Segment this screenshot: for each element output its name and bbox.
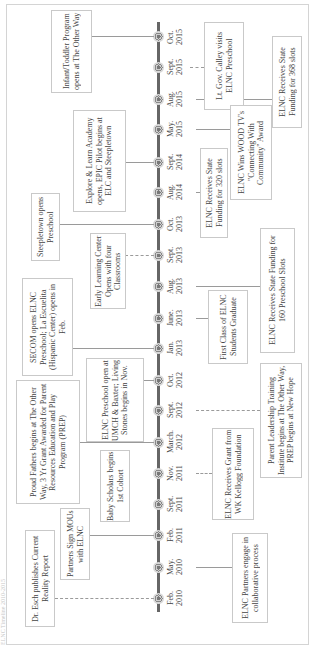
event-text: ELNC Partners engage in collaborative pr…	[241, 534, 260, 622]
event-box-oct2013: Steepletown opens Preschool	[31, 193, 60, 261]
milestone-marker-icon	[153, 530, 164, 541]
date-label: Nov.2011	[166, 460, 184, 486]
milestone-marker-icon	[153, 562, 164, 573]
date-label: Aug.2013	[166, 273, 184, 299]
connector-line	[80, 442, 154, 443]
event-box-feb2011: Partners Sign MOUs with ELNC	[60, 508, 90, 580]
event-box-oct2012: ELNC Preschool open at UMCH & Baxter; Li…	[86, 358, 144, 442]
date-label: Feb.2010	[166, 585, 184, 611]
date-label: Oct.2015	[166, 24, 184, 50]
date-label: Sept.2014	[166, 149, 184, 175]
connector-line	[190, 67, 204, 68]
milestone-marker-icon	[153, 375, 164, 386]
event-box-sept2011: Baby Scholars begins 1st Cohort	[100, 450, 130, 522]
event-text: ELNC Receives State Funding for 368 slot…	[278, 37, 297, 127]
connector-line	[126, 162, 154, 163]
date-label: June.2013	[166, 304, 184, 332]
date-label: Oct.2012	[166, 367, 184, 393]
connector-line	[196, 567, 232, 568]
connector-line	[90, 535, 154, 536]
milestone-marker-icon	[153, 437, 164, 448]
event-box-feb2010: Dr. Esch publishes Current Reality Repor…	[25, 530, 55, 627]
event-box-oct2015: Infant/Toddler Program opens at The Othe…	[51, 10, 92, 93]
event-text: Partners Sign MOUs with ELNC	[66, 509, 85, 579]
milestone-marker-icon	[153, 343, 164, 354]
connector-line	[73, 348, 154, 349]
date-label: March.2012	[166, 426, 184, 458]
event-text: Steepletown opens Preschool	[36, 194, 55, 260]
date-label: Sept.2011	[166, 491, 184, 517]
date-label: Jan.2013	[166, 335, 184, 361]
event-box-sept2015: Lt. Gov. Calley visits ELNC Preschool	[204, 22, 244, 110]
event-box-june2013: First Class of ELNC Students Graduate	[208, 290, 248, 364]
event-box-aug2014: ELNC Receives State Funding for 320 slot…	[200, 148, 228, 238]
milestone-marker-icon	[153, 593, 164, 604]
event-box-nov2011: ELNC Receives Grant from WK Kellogg Foun…	[212, 428, 254, 520]
milestone-marker-icon	[153, 62, 164, 73]
milestone-marker-icon	[153, 313, 164, 324]
event-text: First Class of ELNC Students Graduate	[219, 291, 238, 363]
connector-line	[144, 380, 154, 381]
event-text: SECOM opens ELNC Preschool; La Escuelita…	[29, 279, 67, 375]
date-label: Oct.2013	[166, 211, 184, 237]
date-label: Aug.2014	[166, 179, 184, 205]
connector-line	[55, 598, 154, 599]
event-text: ELNC Receives Grant from WK Kellogg Foun…	[224, 429, 243, 519]
milestone-marker-icon	[153, 124, 164, 135]
event-box-jan2013: SECOM opens ELNC Preschool; La Escuelita…	[22, 278, 73, 376]
event-text: Proud Fathers begins at The Other Way, 3…	[29, 381, 67, 503]
milestone-marker-icon	[153, 94, 164, 105]
milestone-marker-icon	[153, 499, 164, 510]
milestone-marker-icon	[153, 405, 164, 416]
event-text: ELNC Receives State Funding for 160 Pres…	[268, 229, 287, 352]
milestone-marker-icon	[153, 250, 164, 261]
date-label: Aug.2015	[166, 86, 184, 112]
event-text: ELNC Wins WOOD TV's "Connecting With Com…	[237, 106, 266, 199]
event-text: ELNC Preschool open at UMCH & Baxter; Li…	[101, 359, 130, 441]
event-text: Dr. Esch publishes Current Reality Repor…	[31, 531, 50, 626]
connector-line	[196, 473, 212, 474]
event-text: Infant/Toddler Program opens at The Othe…	[62, 11, 81, 92]
event-box-sept2012: Parent Leadership Training Institute beg…	[260, 363, 302, 478]
date-label: May.2010	[166, 554, 184, 580]
event-box-march2012: Proud Fathers begins at The Other Way, 3…	[16, 380, 80, 504]
event-text: Baby Scholars begins 1st Cohort	[106, 451, 125, 521]
event-box-may2015: ELNC Wins WOOD TV's "Connecting With Com…	[230, 105, 272, 200]
event-box-sept2014: Explore & Learn Academy opens, EPIC Pilo…	[73, 110, 126, 212]
milestone-marker-icon	[153, 219, 164, 230]
event-text: Explore & Learn Academy opens, EPIC Pilo…	[85, 111, 114, 211]
event-box-sept2013: Early Learning Center Opens with four Cl…	[90, 233, 126, 309]
connector-line	[60, 224, 154, 225]
milestone-marker-icon	[153, 157, 164, 168]
connector-line	[196, 286, 260, 287]
date-label: Sept.2015	[166, 54, 184, 80]
milestone-marker-icon	[153, 281, 164, 292]
date-label: Sept.2013	[166, 242, 184, 268]
event-text: Lt. Gov. Calley visits ELNC Preschool	[215, 23, 234, 109]
event-box-may2010: ELNC Partners engage in collaborative pr…	[232, 533, 268, 623]
milestone-marker-icon	[153, 468, 164, 479]
connector-line	[196, 129, 230, 130]
date-label: Sept.2012	[166, 397, 184, 423]
connector-line	[196, 318, 208, 319]
figure-title: ELNC Timeline 2010-2015	[0, 440, 6, 645]
connector-line	[92, 36, 154, 37]
event-text: Early Learning Center Opens with four Cl…	[94, 234, 123, 308]
date-label: May.2015	[166, 116, 184, 142]
event-box-aug2015: ELNC Receives State Funding for 368 slot…	[272, 36, 302, 128]
connector-line	[196, 410, 260, 411]
event-box-aug2013: ELNC Receives State Funding for 160 Pres…	[260, 228, 295, 353]
milestone-marker-icon	[153, 31, 164, 42]
event-text: ELNC Receives State Funding for 320 slot…	[205, 149, 224, 237]
date-label: Feb.2011	[166, 522, 184, 548]
connector-line	[125, 255, 154, 256]
milestone-marker-icon	[153, 187, 164, 198]
event-text: Parent Leadership Training Institute beg…	[267, 364, 296, 477]
